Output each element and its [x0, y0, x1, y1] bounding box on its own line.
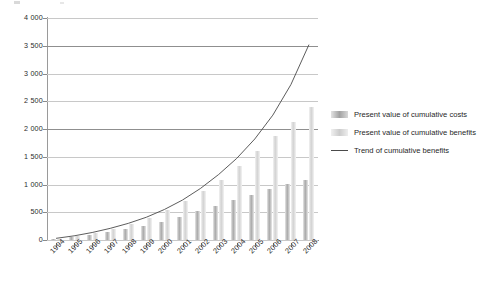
- legend-swatch-line: [331, 147, 348, 154]
- y-axis-labels: 05001 0001 5002 0002 5003 0003 5004 000: [0, 0, 43, 260]
- legend-item: Trend of cumulative benefits: [331, 146, 476, 155]
- y-axis-tick-label: 2 000: [3, 125, 43, 133]
- legend-item: Present value of cumulative benefits: [331, 128, 476, 137]
- legend-swatch-costs: [331, 111, 348, 118]
- y-axis-tick: [43, 212, 47, 213]
- y-axis-tick: [43, 240, 47, 241]
- plot-area: [47, 18, 318, 240]
- y-axis-tick: [43, 74, 47, 75]
- trend-line-series: [47, 18, 318, 240]
- y-axis-tick-label: 3 000: [3, 70, 43, 78]
- y-axis-tick: [43, 101, 47, 102]
- chart-container: 05001 0001 5002 0002 5003 0003 5004 000 …: [0, 0, 480, 288]
- y-axis-tick: [43, 157, 47, 158]
- x-axis-labels: 1994199519961997199819992000200120022003…: [47, 243, 318, 288]
- y-axis-tick: [43, 129, 47, 130]
- legend-item: Present value of cumulative costs: [331, 110, 476, 119]
- legend-label: Present value of cumulative costs: [354, 110, 467, 119]
- legend-swatch-benefits: [331, 129, 348, 136]
- y-axis-tick: [43, 18, 47, 19]
- y-axis-tick: [43, 46, 47, 47]
- y-axis-tick-label: 3 500: [3, 42, 43, 50]
- legend-label: Trend of cumulative benefits: [354, 146, 449, 155]
- scan-artifact: [60, 2, 64, 4]
- chart-legend: Present value of cumulative costsPresent…: [331, 110, 476, 164]
- legend-label: Present value of cumulative benefits: [354, 128, 476, 137]
- y-axis-tick: [43, 185, 47, 186]
- y-axis-tick-label: 1 500: [3, 153, 43, 161]
- y-axis-tick-label: 0: [3, 236, 43, 244]
- y-axis-tick-label: 2 500: [3, 97, 43, 105]
- y-axis-tick-label: 4 000: [3, 14, 43, 22]
- y-axis-tick-label: 1 000: [3, 181, 43, 189]
- y-axis-tick-label: 500: [3, 208, 43, 216]
